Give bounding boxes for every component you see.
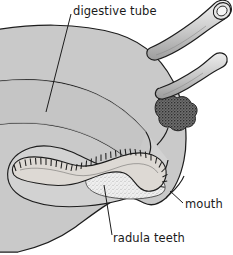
label-radula-teeth: radula teeth <box>113 233 185 245</box>
label-mouth: mouth <box>185 199 223 211</box>
leader-mouth <box>170 191 183 203</box>
upper-tentacle <box>147 0 233 60</box>
diagram-canvas <box>0 0 233 255</box>
label-digestive-tube: digestive tube <box>73 6 157 18</box>
anatomy-figure: digestive tube mouth radula teeth <box>0 0 233 255</box>
